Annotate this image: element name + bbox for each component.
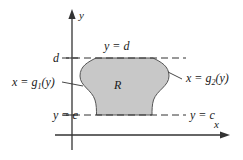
curve-label-left: x = g1(y) — [11, 75, 55, 91]
gridline-label-upper: y = d — [103, 39, 130, 53]
gridline-label-lower: y = c — [189, 108, 215, 122]
curve-label-right: x = g2(y) — [185, 71, 229, 87]
curve-label-right-prefix: x = g — [185, 71, 211, 85]
tick-label-d: d — [53, 51, 60, 65]
region-shape — [80, 58, 169, 115]
y-axis-arrowhead — [68, 9, 75, 19]
diagram-canvas: y x d y = c y = d y = c R x = g1(y) x = … — [0, 0, 243, 160]
region-label: R — [113, 78, 122, 92]
y-axis-label: y — [78, 9, 84, 21]
x-axis-arrowhead — [220, 131, 230, 138]
curve-label-right-suffix: (y) — [215, 71, 228, 85]
leader-line-right — [168, 72, 182, 79]
curve-label-left-prefix: x = g — [11, 75, 37, 89]
tick-label-c: y = c — [52, 108, 78, 122]
figure-container: y x d y = c y = d y = c R x = g1(y) x = … — [0, 0, 243, 160]
curve-label-left-suffix: (y) — [41, 75, 54, 89]
